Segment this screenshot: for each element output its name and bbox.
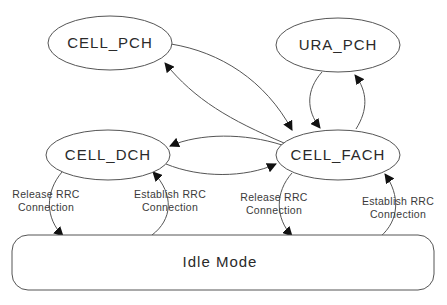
state-idle-mode: Idle Mode (12, 235, 434, 290)
edge-cell-dch-to-cell-fach (166, 164, 276, 175)
cell-dch-label: CELL_DCH (65, 146, 151, 163)
state-cell-dch: CELL_DCH (46, 130, 170, 180)
edge-cell-fach-to-cell-pch (165, 63, 284, 143)
dch-establish-label-line2: Connection (142, 201, 198, 213)
cell-fach-label: CELL_FACH (291, 146, 386, 163)
edge-labels: Release RRC Connection Establish RRC Con… (12, 188, 434, 220)
edge-ura-pch-to-cell-fach (310, 72, 322, 128)
dch-release-label-line1: Release RRC (12, 188, 80, 200)
state-ura-pch: URA_PCH (276, 18, 400, 72)
fach-establish-label-line2: Connection (370, 208, 426, 220)
state-cell-fach: CELL_FACH (276, 130, 400, 180)
cell-pch-label: CELL_PCH (67, 34, 153, 51)
edge-cell-fach-to-ura-pch (355, 75, 365, 129)
fach-establish-label-line1: Establish RRC (362, 195, 434, 207)
fach-release-label-line2: Connection (246, 204, 302, 216)
dch-establish-label-line1: Establish RRC (134, 188, 206, 200)
fach-release-label-line1: Release RRC (240, 191, 308, 203)
idle-mode-label: Idle Mode (183, 253, 258, 270)
rrc-state-diagram: CELL_PCH URA_PCH CELL_DCH CELL_FACH Idle… (0, 0, 447, 305)
dch-release-label-line2: Connection (18, 201, 74, 213)
ura-pch-label: URA_PCH (299, 36, 378, 53)
state-cell-pch: CELL_PCH (48, 16, 172, 70)
edge-cell-fach-to-cell-dch (170, 136, 282, 146)
edge-cell-pch-to-cell-fach (171, 44, 292, 130)
